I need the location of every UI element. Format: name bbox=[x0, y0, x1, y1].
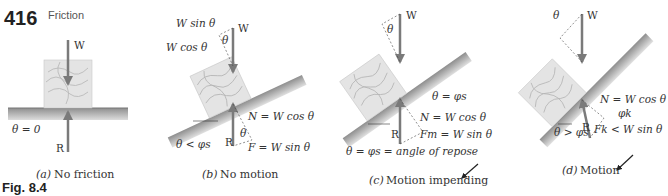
label-r: R bbox=[391, 128, 400, 140]
label-condition: θ < φs bbox=[176, 138, 211, 150]
label-wcos: W cos θ bbox=[166, 41, 208, 53]
label-r: R bbox=[225, 136, 234, 148]
caption-a: No friction bbox=[54, 168, 114, 181]
caption-b-letter: (b) bbox=[202, 168, 218, 181]
label-repose: θ = φs = angle of repose bbox=[346, 145, 478, 157]
friction-diagram: W R θ = 0 (a) No friction W W sin θ W co… bbox=[0, 0, 668, 196]
label-theta-zero: θ = 0 bbox=[12, 123, 41, 135]
label-theta: θ bbox=[387, 23, 394, 35]
label-normal: N = W cos θ bbox=[599, 93, 667, 105]
label-normal: N = W cos θ bbox=[419, 111, 487, 123]
label-theta-eq: θ = φs bbox=[432, 90, 467, 102]
caption-a-letter: (a) bbox=[36, 168, 51, 181]
label-normal: N = W cos θ bbox=[247, 110, 315, 122]
label-phik: φk bbox=[618, 107, 632, 119]
caption-c: Motion impending bbox=[386, 174, 488, 187]
label-theta-2: θ bbox=[240, 127, 247, 139]
svg-text:W: W bbox=[406, 9, 417, 21]
label-friction: Fk < W sin θ bbox=[593, 123, 663, 135]
label-theta: θ bbox=[222, 34, 229, 46]
caption-d-letter: (d) bbox=[562, 164, 578, 177]
caption-b: No motion bbox=[220, 168, 278, 181]
label-friction: F = W sin θ bbox=[247, 141, 311, 153]
svg-text:W: W bbox=[587, 9, 598, 21]
motion-direction-arrow bbox=[617, 155, 633, 170]
label-theta: θ bbox=[553, 9, 560, 21]
panel-b: W W sin θ W cos θ θ θ N = W cos θ F = W … bbox=[148, 17, 314, 181]
label-wsin: W sin θ bbox=[176, 17, 216, 29]
panel-c: W θ θ = φs N = W cos θ Fm = W sin θ R θ … bbox=[315, 9, 493, 187]
panel-d: W θ N = W cos θ φk Fk < W sin θ R θ > φs… bbox=[506, 0, 667, 177]
panel-a: W R θ = 0 (a) No friction bbox=[8, 39, 128, 181]
caption-d: Motion bbox=[580, 164, 620, 177]
label-condition: θ > φs bbox=[554, 126, 589, 138]
svg-text:W: W bbox=[238, 22, 249, 34]
caption-c-letter: (c) bbox=[369, 174, 384, 187]
label-friction: Fm = W sin θ bbox=[419, 128, 493, 140]
label-w: W bbox=[74, 39, 85, 51]
label-r: R bbox=[56, 142, 65, 154]
